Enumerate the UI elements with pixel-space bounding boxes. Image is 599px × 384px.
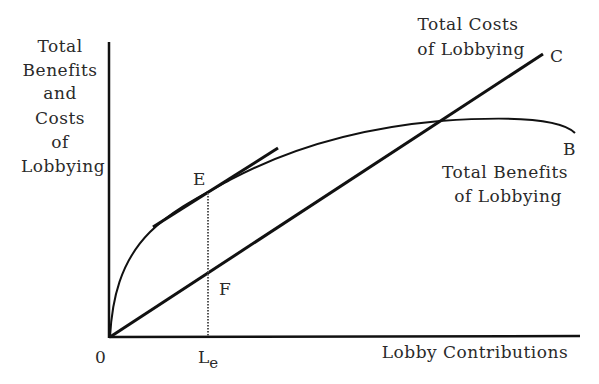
- point-c-label: C: [550, 46, 563, 66]
- le-label: Le: [198, 347, 218, 372]
- lobbying-diagram: Total Benefits and Costs of Lobbying Tot…: [0, 0, 599, 384]
- point-e-label: E: [193, 169, 205, 189]
- total-costs-label: Total Costs of Lobbying: [417, 14, 525, 59]
- x-axis-label: Lobby Contributions: [382, 342, 568, 362]
- tangent-line-at-e: [153, 148, 278, 227]
- total-benefits-curve: [110, 119, 575, 337]
- point-f-label: F: [219, 279, 231, 299]
- total-benefits-label: Total Benefits of Lobbying: [442, 162, 574, 206]
- point-b-label: B: [563, 139, 576, 159]
- origin-label: 0: [95, 347, 106, 367]
- x-axis: [109, 336, 580, 337]
- y-axis-label: Total Benefits and Costs of Lobbying: [21, 36, 105, 176]
